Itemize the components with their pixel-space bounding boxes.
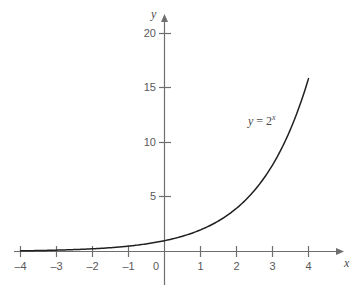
equation-equals: = <box>256 114 263 128</box>
plot-area <box>0 0 356 297</box>
y-tick-label-5: 5 <box>136 191 156 202</box>
x-tick-label-2: 2 <box>222 261 251 272</box>
y-tick-label-10: 10 <box>136 137 156 148</box>
y-tick-label-20: 20 <box>136 28 156 39</box>
x-tick-label-minus1: –1 <box>114 261 143 272</box>
x-tick-label-4: 4 <box>294 261 323 272</box>
x-tick-label-minus4: –4 <box>6 261 35 272</box>
x-tick-label-0: 0 <box>146 261 166 272</box>
y-tick-label-15: 15 <box>136 82 156 93</box>
x-tick-label-minus2: –2 <box>78 261 107 272</box>
x-axis <box>14 248 344 255</box>
equation-lhs: y <box>248 114 253 128</box>
y-axis-title: y <box>151 8 156 20</box>
x-tick-label-1: 1 <box>186 261 215 272</box>
y-axis <box>161 14 168 285</box>
chart-figure: 20 15 10 5 –4 –3 –2 –1 0 1 2 3 4 y x y =… <box>0 0 356 297</box>
equation-exponent: x <box>272 113 276 122</box>
x-tick-label-3: 3 <box>258 261 287 272</box>
x-axis-title: x <box>344 257 349 269</box>
x-tick-label-minus3: –3 <box>42 261 71 272</box>
curve-equation-label: y = 2x <box>248 115 276 127</box>
